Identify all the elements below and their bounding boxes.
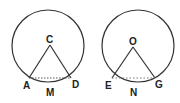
label-o: O <box>129 36 137 47</box>
right-figure: O E N G <box>102 10 174 98</box>
label-e: E <box>105 80 112 91</box>
diagram-canvas: C A M D O E N G <box>0 0 180 103</box>
label-c: C <box>46 34 53 45</box>
left-figure: C A M D <box>12 10 84 98</box>
circle-right <box>102 10 174 82</box>
circle-left <box>12 10 84 82</box>
radius-og <box>133 47 155 78</box>
label-d: D <box>72 79 79 90</box>
radius-cd <box>50 45 71 78</box>
radius-ca <box>29 45 50 78</box>
label-a: A <box>23 80 30 91</box>
label-n: N <box>130 87 137 98</box>
label-m: M <box>46 87 54 98</box>
radius-oe <box>112 47 133 78</box>
label-g: G <box>155 79 163 90</box>
